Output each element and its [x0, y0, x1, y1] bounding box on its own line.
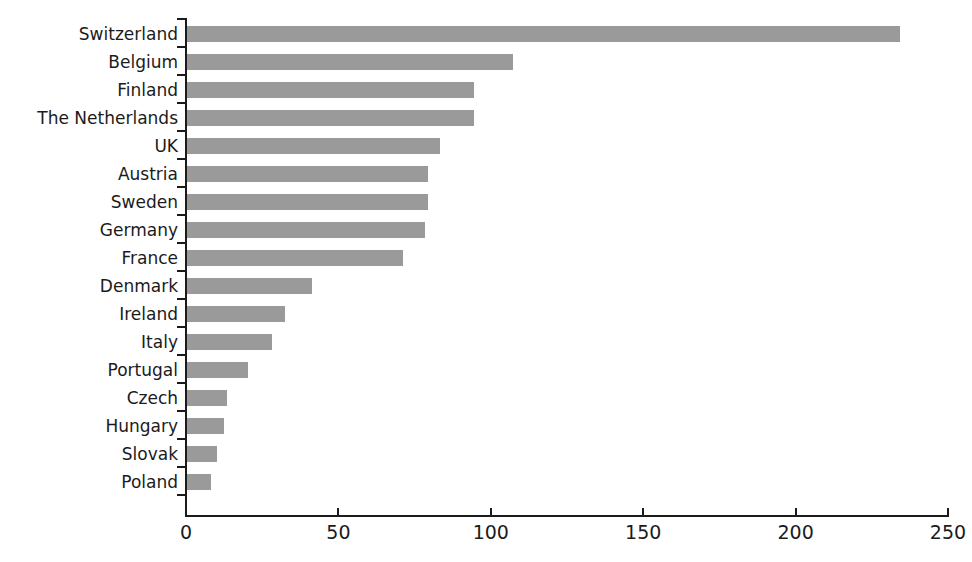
y-tick-mark [177, 382, 186, 384]
bar [187, 222, 425, 238]
bar-fill [187, 110, 474, 126]
category-label: Hungary [105, 418, 178, 434]
bar-fill [187, 82, 474, 98]
bar-fill [187, 222, 425, 238]
y-tick-mark [177, 354, 186, 356]
category-label: The Netherlands [37, 110, 178, 126]
x-axis-line [185, 515, 949, 517]
y-tick-mark [177, 102, 186, 104]
bar [187, 278, 312, 294]
bar-fill [187, 166, 428, 182]
y-tick-mark [177, 410, 186, 412]
x-tick-label: 150 [625, 521, 661, 543]
x-tick-mark [947, 508, 949, 517]
bar-fill [187, 334, 272, 350]
y-tick-mark [177, 326, 186, 328]
y-tick-mark [177, 46, 186, 48]
category-label: Ireland [119, 306, 178, 322]
bar [187, 362, 248, 378]
category-label: Slovak [122, 446, 178, 462]
y-tick-mark [177, 130, 186, 132]
bar-fill [187, 418, 224, 434]
x-tick-mark [185, 508, 187, 517]
x-tick-label: 200 [777, 521, 813, 543]
bar-fill [187, 362, 248, 378]
category-label: Belgium [108, 54, 178, 70]
bar [187, 474, 211, 490]
category-label: Italy [141, 334, 178, 350]
category-label: Czech [127, 390, 178, 406]
bar-fill [187, 390, 227, 406]
category-label: Germany [100, 222, 178, 238]
x-tick-mark [490, 508, 492, 517]
x-tick-label: 50 [326, 521, 350, 543]
bar [187, 334, 272, 350]
category-label: Portugal [108, 362, 178, 378]
y-tick-mark [177, 494, 186, 496]
category-label: Sweden [111, 194, 178, 210]
bar [187, 110, 474, 126]
y-tick-mark [177, 214, 186, 216]
bar [187, 418, 224, 434]
bar-fill [187, 306, 285, 322]
bar-fill [187, 54, 513, 70]
bar [187, 194, 428, 210]
bar [187, 82, 474, 98]
category-label: Poland [121, 474, 178, 490]
bar [187, 306, 285, 322]
category-label: France [121, 250, 178, 266]
bar-fill [187, 194, 428, 210]
bar [187, 54, 513, 70]
y-tick-mark [177, 298, 186, 300]
y-tick-mark [177, 466, 186, 468]
category-label: Denmark [100, 278, 178, 294]
category-label: Switzerland [79, 26, 178, 42]
category-label: Finland [117, 82, 178, 98]
bar [187, 446, 217, 462]
plot-area: SwitzerlandBelgiumFinlandThe Netherlands… [0, 0, 972, 562]
y-tick-mark [177, 242, 186, 244]
x-tick-mark [337, 508, 339, 517]
category-label: UK [154, 138, 178, 154]
y-tick-mark [177, 270, 186, 272]
x-tick-mark [795, 508, 797, 517]
x-tick-label: 250 [930, 521, 966, 543]
bar [187, 138, 440, 154]
bar-chart: SwitzerlandBelgiumFinlandThe Netherlands… [0, 0, 972, 562]
x-tick-label: 100 [473, 521, 509, 543]
category-label: Austria [118, 166, 178, 182]
x-tick-mark [642, 508, 644, 517]
y-tick-mark [177, 438, 186, 440]
bar-fill [187, 250, 403, 266]
bar [187, 166, 428, 182]
y-tick-mark [177, 186, 186, 188]
y-tick-mark [177, 158, 186, 160]
bar [187, 26, 900, 42]
bar-fill [187, 138, 440, 154]
y-tick-mark [177, 18, 186, 20]
bar-fill [187, 26, 900, 42]
bar-fill [187, 278, 312, 294]
bar [187, 250, 403, 266]
y-tick-mark [177, 74, 186, 76]
bar-fill [187, 446, 217, 462]
bar-fill [187, 474, 211, 490]
x-tick-label: 0 [180, 521, 192, 543]
bar [187, 390, 227, 406]
